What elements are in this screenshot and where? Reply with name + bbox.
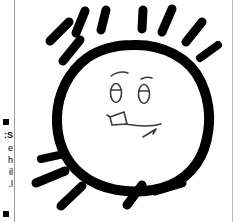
- ray-top-center-right: [162, 9, 172, 32]
- cropped-text-column: S: e h il l.: [0, 0, 13, 222]
- right-edge-rule: [232, 0, 233, 222]
- ray-top-right-outer: [200, 45, 218, 58]
- ray-top-left-upper: [76, 11, 85, 33]
- ray-top-left-mid: [50, 22, 69, 41]
- right-eye: [139, 85, 150, 104]
- nose: [110, 112, 127, 125]
- cropped-text-line-2: e: [0, 144, 13, 153]
- mouth: [125, 124, 161, 126]
- sun-drawing: [15, 0, 233, 222]
- left-eye: [111, 84, 122, 103]
- ray-top-right-upper: [186, 22, 202, 42]
- cropped-text-line-3: h: [0, 156, 13, 165]
- screenshot-root: S: e h il l.: [0, 0, 233, 222]
- cropped-text-line-5: l.: [0, 180, 13, 189]
- ray-bottom-left-mid: [36, 171, 65, 183]
- cropped-bullet-bottom: [3, 211, 9, 217]
- sun-face: [107, 72, 161, 137]
- ray-bottom-left-low: [61, 186, 82, 206]
- nose-stem: [107, 115, 110, 117]
- sun-body: [57, 45, 209, 192]
- mouth-tick: [143, 129, 156, 137]
- left-eyebrow: [111, 72, 128, 76]
- ray-top-left-outer: [63, 40, 80, 61]
- ray-top-center: [142, 10, 143, 29]
- cropped-bullet-top: [3, 119, 9, 125]
- sun-drawing-panel: [15, 0, 233, 222]
- cropped-text-line-1: S:: [0, 131, 13, 140]
- cropped-text-line-4: il: [0, 168, 13, 177]
- ray-top-center-left: [101, 10, 106, 30]
- right-eyebrow: [141, 77, 152, 79]
